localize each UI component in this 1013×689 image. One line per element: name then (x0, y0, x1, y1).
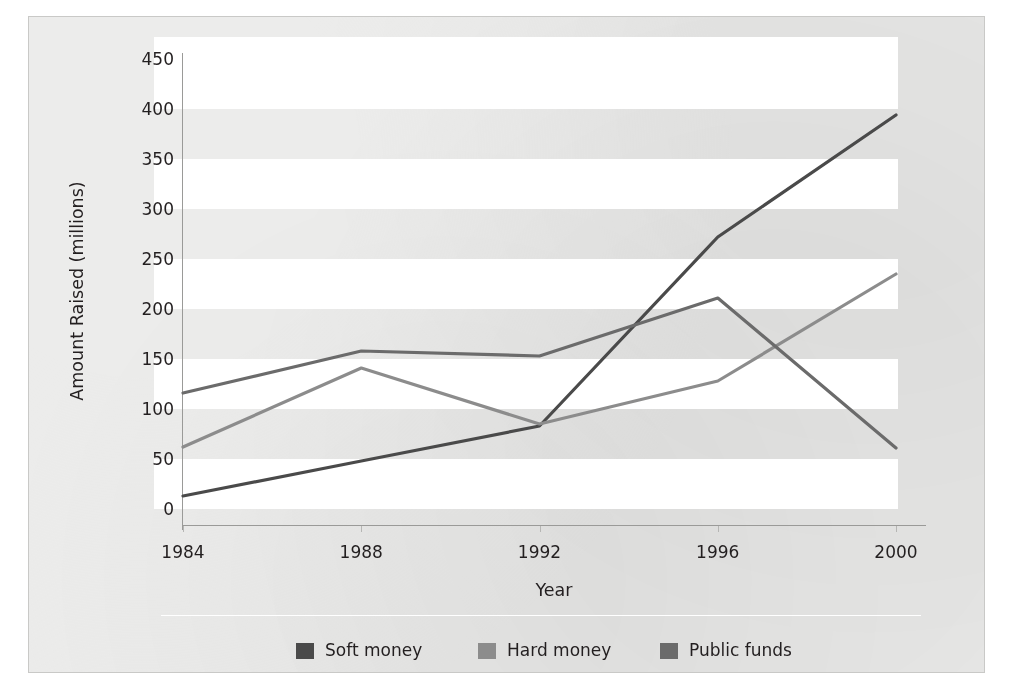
legend-item[interactable]: Public funds (660, 642, 792, 659)
legend-label: Public funds (689, 642, 792, 659)
series-line (183, 115, 896, 496)
series-lines (29, 17, 986, 674)
legend-label: Hard money (507, 642, 611, 659)
legend-swatch-icon (478, 643, 496, 659)
legend-item[interactable]: Soft money (296, 642, 422, 659)
legend-swatch-icon (296, 643, 314, 659)
series-line (183, 274, 896, 447)
legend-item[interactable]: Hard money (478, 642, 611, 659)
legend-swatch-icon (660, 643, 678, 659)
legend-label: Soft money (325, 642, 422, 659)
chart-legend: Soft moneyHard moneyPublic funds (161, 615, 921, 672)
figure-card: 050100150200250300350400450 198419881992… (28, 16, 985, 673)
